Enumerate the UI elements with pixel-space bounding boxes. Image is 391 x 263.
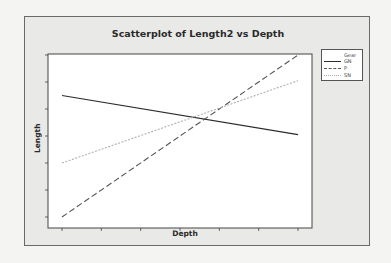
- chart-frame: Scatterplot of Length2 vs Depth Length D…: [24, 16, 370, 246]
- legend: Gear GN P SN: [321, 49, 363, 81]
- plot-area: [25, 17, 371, 247]
- plot-background: [48, 54, 312, 228]
- legend-item-gn: GN: [324, 58, 362, 64]
- solid-line-icon: [324, 61, 341, 62]
- dotted-line-icon: [324, 75, 341, 76]
- dashed-line-icon: [324, 68, 341, 69]
- y-axis-label: Length: [33, 129, 49, 153]
- legend-item-p: P: [324, 65, 362, 71]
- legend-item-sn: SN: [324, 72, 362, 78]
- x-axis-label: Depth: [165, 229, 205, 238]
